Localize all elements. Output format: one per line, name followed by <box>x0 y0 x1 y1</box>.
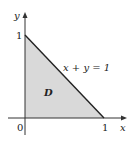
line-equation-label: x + y = 1 <box>63 62 110 73</box>
y-axis-arrow-icon <box>23 12 28 18</box>
y-tick-label: 1 <box>16 30 22 41</box>
x-axis-label: x <box>120 122 126 133</box>
x-axis-arrow-icon <box>121 116 127 121</box>
region-label: D <box>43 87 53 98</box>
y-axis-label: y <box>13 10 20 21</box>
x-tick-label: 1 <box>102 122 108 133</box>
origin-label: 0 <box>17 122 23 133</box>
region-diagram: y 1 0 1 x x + y = 1 D <box>0 0 133 144</box>
